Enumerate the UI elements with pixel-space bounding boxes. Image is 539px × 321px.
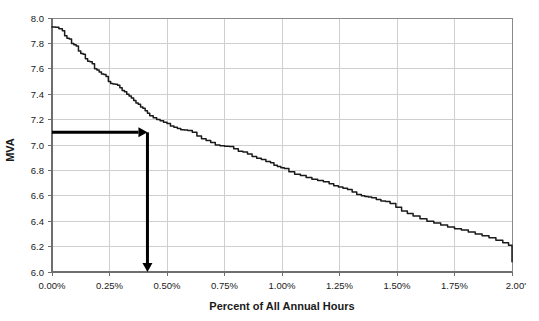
- x-tick-label: 0.75%: [211, 280, 238, 291]
- y-tick-label: 6.0: [31, 267, 44, 278]
- reference-annotations: [52, 127, 152, 272]
- x-tick-label: 0.50%: [154, 280, 181, 291]
- y-tick-label: 6.6: [31, 190, 44, 201]
- x-tick-label: 2.00': [506, 280, 526, 291]
- x-tick-label: 1.00%: [269, 280, 296, 291]
- x-tick-label: 1.50%: [384, 280, 411, 291]
- tick-marks: [48, 18, 512, 276]
- grid-lines: [52, 18, 512, 272]
- y-tick-label: 7.4: [31, 89, 44, 100]
- chart-container: 0.00%0.25%0.50%0.75%1.00%1.25%1.50%1.75%…: [0, 0, 539, 321]
- x-tick-label: 0.25%: [96, 280, 123, 291]
- y-axis-title: MVA: [4, 138, 16, 162]
- y-tick-label: 6.2: [31, 241, 44, 252]
- x-tick-label: 1.25%: [326, 280, 353, 291]
- x-tick-label: 1.75%: [441, 280, 468, 291]
- x-tick-labels: 0.00%0.25%0.50%0.75%1.00%1.25%1.50%1.75%…: [39, 280, 527, 291]
- y-tick-label: 7.6: [31, 63, 44, 74]
- y-tick-label: 7.0: [31, 140, 44, 151]
- y-tick-label: 6.8: [31, 165, 44, 176]
- y-tick-labels: 6.06.26.46.66.87.07.27.47.67.88.0: [31, 13, 44, 278]
- y-tick-label: 7.8: [31, 38, 44, 49]
- y-tick-label: 8.0: [31, 13, 44, 24]
- x-axis-title: Percent of All Annual Hours: [209, 300, 354, 312]
- x-tick-label: 0.00%: [39, 280, 66, 291]
- y-tick-label: 6.4: [31, 216, 44, 227]
- y-tick-label: 7.2: [31, 114, 44, 125]
- load-duration-chart: 0.00%0.25%0.50%0.75%1.00%1.25%1.50%1.75%…: [0, 0, 539, 321]
- vertical-reference-arrow-head: [142, 263, 152, 272]
